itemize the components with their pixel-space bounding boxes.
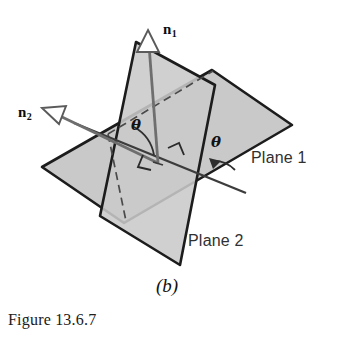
plane-1-label: Plane 1 [251,150,307,166]
normal-2-subscript: 2 [26,111,32,122]
normal-1-label: n1 [163,22,177,39]
figure-container: n1 n2 θ θ Plane 1 Plane 2 (b) Figure 13.… [0,0,338,340]
figure-caption: Figure 13.6.7 [8,312,96,328]
normal-2-arrowhead-icon [42,106,66,124]
theta-label-planes: θ [211,135,221,150]
plane-2-label: Plane 2 [188,233,244,249]
normal-1-arrowhead-icon [137,30,159,52]
normal-1-subscript: 1 [171,28,177,39]
theta-label-normals: θ [131,118,141,133]
normal-2-label: n2 [18,105,32,122]
figure-part-label: (b) [156,276,178,295]
